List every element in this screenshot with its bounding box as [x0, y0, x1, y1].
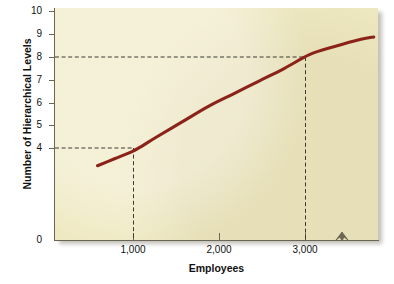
axis-break-caret-icon: [336, 232, 348, 241]
chart-figure: 10 9 8 7 6 5 4 0 1,000 2,000 3,000 Numbe…: [0, 0, 394, 284]
data-series-curve: [98, 37, 374, 166]
chart-vector-layer: [0, 0, 394, 284]
